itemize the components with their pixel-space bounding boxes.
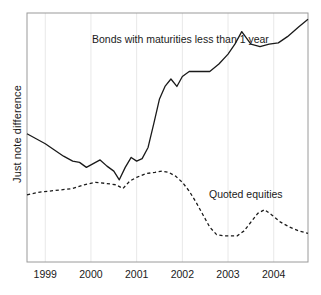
series-line-quoted-equities (27, 171, 308, 236)
x-tick-label: 2004 (252, 268, 296, 280)
chart-figure: Just note difference 1999200020012002200… (0, 0, 321, 295)
y-axis-label: Just note difference (11, 54, 23, 214)
plot-frame (27, 13, 308, 262)
x-tick-label: 2001 (115, 268, 159, 280)
series-label-bonds: Bonds with maturities less than 1 year (92, 33, 269, 45)
x-tick-label: 2000 (69, 268, 113, 280)
gridlines (45, 13, 273, 262)
x-tick-label: 1999 (23, 268, 67, 280)
x-tick-label: 2002 (160, 268, 204, 280)
x-tick-label: 2003 (206, 268, 250, 280)
series-label-quoted-equities: Quoted equities (209, 188, 283, 200)
